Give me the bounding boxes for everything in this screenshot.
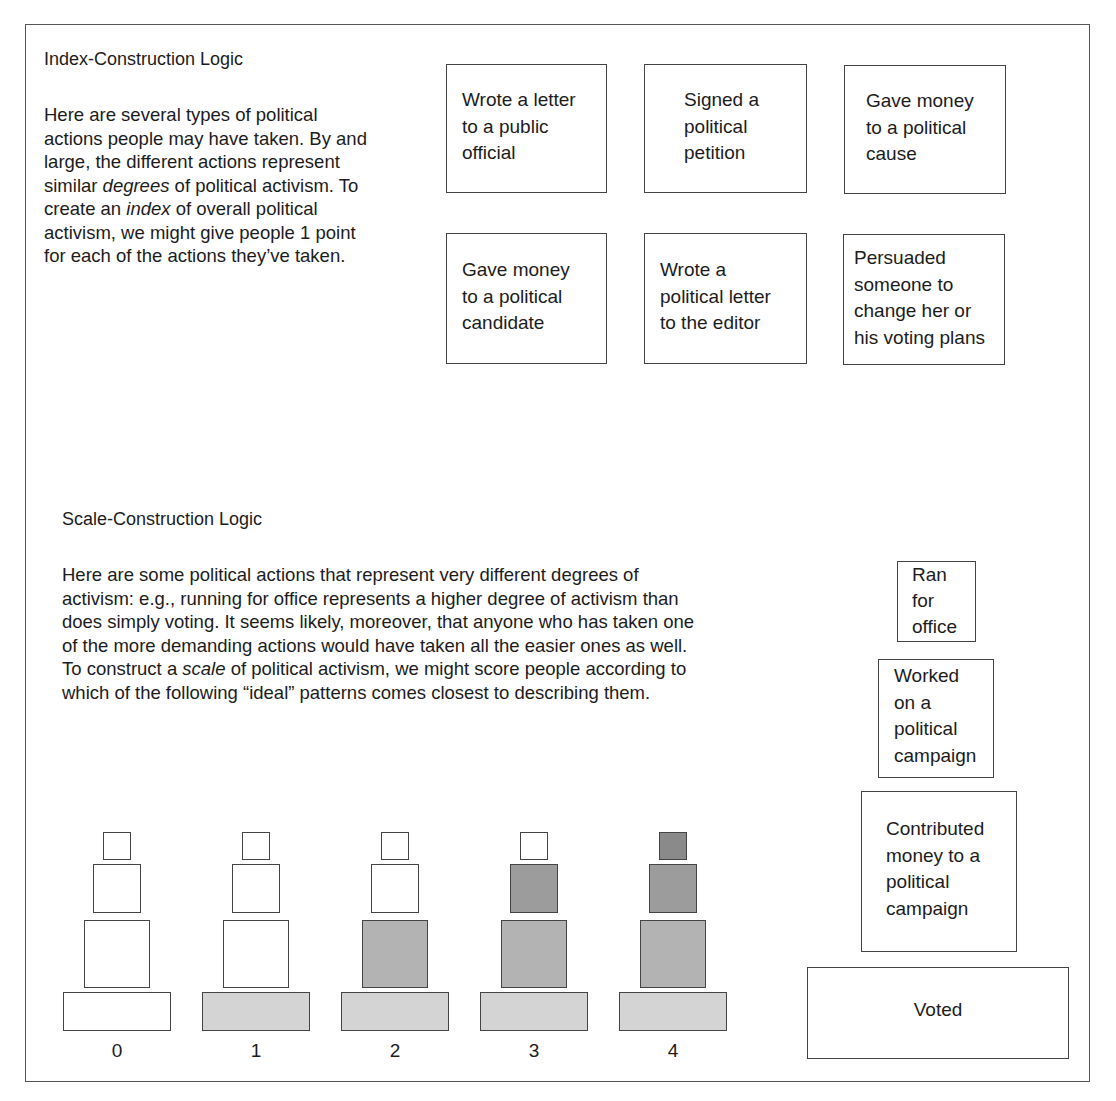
para-line: activism: e.g., running for office repre…: [62, 587, 802, 611]
para-line: To construct a scale of political activi…: [62, 657, 802, 681]
tower-block-level-2: [223, 920, 289, 988]
hierarchy-box-worked-campaign: Worked on a political campaign: [878, 659, 994, 778]
pattern-score-label: 1: [236, 1040, 276, 1062]
emphasis-degrees: degrees: [103, 175, 170, 196]
action-label: Signed a political petition: [684, 87, 759, 167]
para-line: activism, we might give people 1 point: [44, 221, 424, 245]
action-label: Gave money to a political cause: [866, 88, 974, 168]
hierarchy-label: Ran for office: [912, 562, 957, 640]
text: similar: [44, 175, 103, 196]
para-line: Here are some political actions that rep…: [62, 563, 802, 587]
text: of political activism. To: [169, 175, 358, 196]
tower-block-level-1: [202, 992, 310, 1031]
tower-block-level-3: [371, 864, 419, 913]
pattern-score-label: 4: [653, 1040, 693, 1062]
text: of overall political: [171, 198, 318, 219]
pattern-score-label: 0: [97, 1040, 137, 1062]
tower-block-level-4: [103, 832, 131, 860]
tower-block-level-3: [510, 864, 558, 913]
para-line: which of the following “ideal” patterns …: [62, 681, 802, 705]
action-box-letter-public-official: Wrote a letter to a public official: [446, 64, 607, 193]
tower-block-level-1: [480, 992, 588, 1031]
tower-block-level-1: [63, 992, 171, 1031]
action-label: Persuaded someone to change her or his v…: [854, 245, 985, 351]
tower-block-level-3: [93, 864, 141, 913]
tower-block-level-1: [619, 992, 727, 1031]
text: create an: [44, 198, 126, 219]
tower-block-level-3: [649, 864, 697, 913]
para-line: large, the different actions represent: [44, 150, 424, 174]
index-section-title: Index-Construction Logic: [44, 48, 243, 70]
hierarchy-label: Contributed money to a political campaig…: [886, 816, 984, 922]
action-label: Gave money to a political candidate: [462, 257, 570, 337]
hierarchy-label: Worked on a political campaign: [894, 663, 976, 769]
hierarchy-label: Voted: [808, 997, 1068, 1024]
pattern-score-label: 2: [375, 1040, 415, 1062]
tower-block-level-4: [659, 832, 687, 860]
text: To construct a: [62, 658, 182, 679]
emphasis-index: index: [126, 198, 170, 219]
tower-block-level-2: [501, 920, 567, 988]
para-line: actions people may have taken. By and: [44, 127, 424, 151]
para-line: of the more demanding actions would have…: [62, 634, 802, 658]
tower-block-level-1: [341, 992, 449, 1031]
tower-block-level-2: [640, 920, 706, 988]
emphasis-scale: scale: [182, 658, 225, 679]
tower-block-level-4: [381, 832, 409, 860]
pattern-score-label: 3: [514, 1040, 554, 1062]
action-box-money-candidate: Gave money to a political candidate: [446, 233, 607, 364]
action-label: Wrote a political letter to the editor: [660, 257, 771, 337]
para-line: Here are several types of political: [44, 103, 424, 127]
action-label: Wrote a letter to a public official: [462, 87, 576, 167]
scale-section-paragraph: Here are some political actions that rep…: [62, 563, 802, 704]
para-line: similar degrees of political activism. T…: [44, 174, 424, 198]
tower-block-level-4: [242, 832, 270, 860]
para-line: does simply voting. It seems likely, mor…: [62, 610, 802, 634]
action-box-letter-editor: Wrote a political letter to the editor: [644, 233, 807, 364]
tower-block-level-3: [232, 864, 280, 913]
text: of political activism, we might score pe…: [226, 658, 687, 679]
tower-block-level-4: [520, 832, 548, 860]
tower-block-level-2: [84, 920, 150, 988]
hierarchy-box-ran-for-office: Ran for office: [897, 561, 976, 642]
action-box-signed-petition: Signed a political petition: [644, 64, 807, 193]
hierarchy-box-contributed-money: Contributed money to a political campaig…: [861, 791, 1017, 952]
para-line: create an index of overall political: [44, 197, 424, 221]
para-line: for each of the actions they’ve taken.: [44, 244, 424, 268]
scale-section-title: Scale-Construction Logic: [62, 508, 262, 530]
index-section-paragraph: Here are several types of political acti…: [44, 103, 424, 268]
action-box-persuaded-someone: Persuaded someone to change her or his v…: [843, 234, 1005, 365]
tower-block-level-2: [362, 920, 428, 988]
hierarchy-box-voted: Voted: [807, 967, 1069, 1059]
action-box-money-cause: Gave money to a political cause: [844, 65, 1006, 194]
